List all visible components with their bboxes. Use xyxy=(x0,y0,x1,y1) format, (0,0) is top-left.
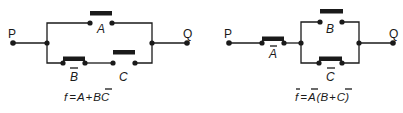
formula-f-bar: f=A(B+C) xyxy=(295,91,349,103)
terminal-q xyxy=(184,40,190,46)
terminal-p xyxy=(10,40,16,46)
contact-node xyxy=(109,20,114,25)
switch-c xyxy=(110,50,137,66)
terminal-label-q: Q xyxy=(183,27,192,41)
switch-c-bar xyxy=(316,57,344,66)
junction-node xyxy=(149,40,154,45)
terminal-q xyxy=(390,40,396,46)
switch-bar-open xyxy=(90,11,112,16)
switching-circuits-diagram: P Q A B C f=A+BC xyxy=(0,0,403,113)
terminal-label-q: Q xyxy=(389,27,398,41)
junction-node xyxy=(44,40,49,45)
junction-node xyxy=(298,40,303,45)
switch-label-c: C xyxy=(119,70,128,84)
switch-bar-closed xyxy=(63,57,85,62)
contact-node xyxy=(110,60,115,65)
wire xyxy=(112,23,152,63)
switch-bar-closed xyxy=(319,57,342,62)
switch-bar-closed xyxy=(262,37,284,42)
junction-node xyxy=(356,40,361,45)
switch-label-a: A xyxy=(96,22,105,36)
switch-label-b-bar: B xyxy=(70,70,78,84)
contact-node xyxy=(339,19,344,24)
left-circuit: P Q A B C f=A+BC xyxy=(8,11,192,103)
contact-node xyxy=(87,20,92,25)
contact-node xyxy=(132,60,137,65)
formula-f: f=A+BC xyxy=(64,91,110,103)
switch-label-b: B xyxy=(326,22,334,36)
switch-bar-open xyxy=(320,9,343,14)
switch-b-bar xyxy=(60,57,87,66)
wire xyxy=(301,22,320,63)
terminal-label-p: P xyxy=(8,27,16,41)
contact-node xyxy=(317,19,322,24)
switch-label-c-bar: C xyxy=(326,70,335,84)
terminal-p xyxy=(226,40,232,46)
right-circuit: P Q A B C f=A(B+C) xyxy=(224,9,398,103)
switch-bar-open xyxy=(113,50,135,55)
terminal-label-p: P xyxy=(224,27,232,41)
switch-a-bar xyxy=(259,37,286,46)
switch-label-a-bar: A xyxy=(268,47,277,61)
